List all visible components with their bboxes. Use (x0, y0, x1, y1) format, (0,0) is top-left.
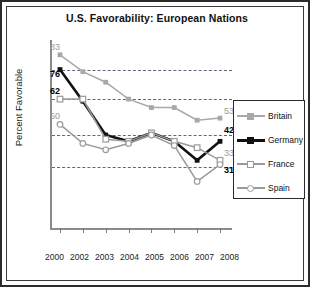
data-point (218, 139, 223, 144)
data-value-label: 76 (50, 69, 60, 79)
legend-item-spain[interactable]: Spain (237, 176, 290, 200)
legend-marker-icon (237, 135, 265, 145)
data-point (126, 141, 132, 147)
data-point (149, 105, 154, 110)
data-point (58, 52, 63, 57)
data-point (57, 96, 63, 102)
data-point (80, 69, 85, 74)
data-point (195, 158, 200, 163)
x-axis-tick-label: 2004 (117, 252, 142, 262)
x-axis-tick-label: 2002 (67, 252, 92, 262)
x-axis-tick-label: 2003 (92, 252, 117, 262)
page-title: U.S. Favorability: European Nations (2, 12, 310, 24)
data-point (218, 116, 223, 121)
data-point (103, 80, 108, 85)
data-point (103, 136, 109, 142)
data-point (57, 122, 63, 128)
legend-item-label: Germany (268, 135, 303, 145)
legend-marker-icon (237, 111, 265, 121)
data-point (103, 147, 109, 153)
data-value-label: 62 (50, 86, 60, 96)
data-point (126, 97, 131, 102)
y-axis-label: Percent Favorable (13, 48, 24, 168)
x-axis-tick-label: 2005 (142, 252, 167, 262)
plot-area: 8353764262335031 (50, 40, 232, 230)
x-axis-tick-label: 2006 (167, 252, 192, 262)
series-britain (58, 52, 223, 122)
legend-item-label: Britain (268, 111, 292, 121)
legend-item-britain[interactable]: Britain (237, 104, 292, 128)
legend-marker-icon (237, 159, 265, 169)
data-value-label: 50 (50, 111, 60, 121)
data-value-label: 83 (50, 42, 60, 52)
data-point (194, 145, 200, 151)
x-axis-tick-label: 2008 (217, 252, 242, 262)
data-point (80, 141, 86, 147)
data-point (172, 105, 177, 110)
series-spain (57, 122, 223, 185)
x-axis-tick-label: 2007 (192, 252, 217, 262)
data-point (171, 143, 177, 149)
data-point (80, 96, 86, 102)
data-point (194, 179, 200, 185)
chart-legend: BritainGermanyFranceSpain (233, 100, 305, 199)
legend-item-label: Spain (268, 183, 290, 193)
x-axis-tick-label: 2000 (42, 252, 67, 262)
series-france (57, 96, 223, 163)
legend-item-france[interactable]: France (237, 152, 294, 176)
legend-item-label: France (268, 159, 294, 169)
legend-marker-icon (237, 183, 265, 193)
image-frame: U.S. Favorability: European Nations Perc… (0, 0, 310, 287)
x-axis-tick-labels: 20002002200320042005200620072008 (42, 252, 242, 262)
series-lines (50, 40, 232, 230)
data-point (217, 162, 223, 168)
legend-item-germany[interactable]: Germany (237, 128, 303, 152)
data-point (195, 118, 200, 123)
data-point (149, 132, 155, 138)
